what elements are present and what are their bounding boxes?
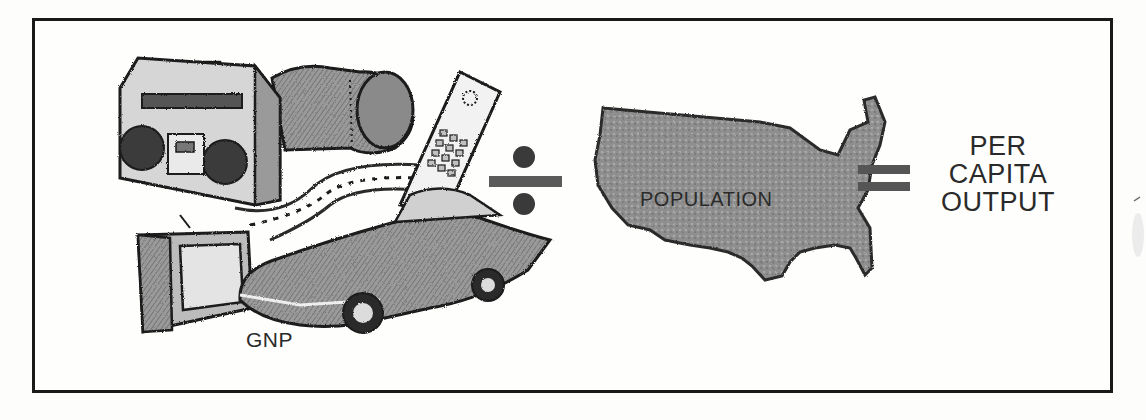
paper-mark-icon: [1128, 195, 1146, 265]
result-line-1: PER: [938, 132, 1058, 160]
population-label: POPULATION: [640, 188, 772, 211]
bag-icon: [272, 66, 413, 153]
tv-icon: [138, 215, 252, 332]
gnp-label: GNP: [246, 328, 293, 352]
per-capita-output-label: PER CAPITA OUTPUT: [938, 132, 1058, 216]
result-line-2: CAPITA: [938, 160, 1058, 188]
car-icon: [240, 189, 550, 334]
radio-icon: [120, 58, 280, 205]
result-line-3: OUTPUT: [938, 188, 1058, 216]
divide-icon: [489, 146, 562, 215]
